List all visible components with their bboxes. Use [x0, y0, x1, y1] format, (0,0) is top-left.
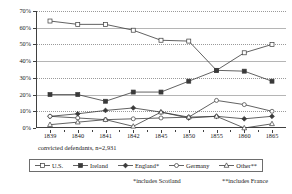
data-point [104, 99, 108, 103]
data-point [159, 90, 163, 94]
x-tick-mark [272, 130, 273, 133]
data-point [242, 103, 246, 107]
data-point [215, 98, 219, 102]
y-tick-label: 60% [19, 25, 31, 31]
x-tick-mark [217, 130, 218, 133]
y-tick-label: 50% [19, 41, 31, 47]
series-line [50, 21, 272, 70]
data-point [48, 19, 52, 23]
data-point [242, 116, 247, 121]
y-tick-mark [33, 128, 36, 129]
footnote-france: **includes France [222, 177, 268, 184]
x-tick-mark [244, 130, 245, 133]
x-tick-mark [161, 130, 162, 133]
series-us [48, 19, 274, 72]
data-point [270, 42, 274, 46]
data-point [159, 116, 163, 120]
chart-caption: convicted defendants, n=2,931 [38, 144, 117, 152]
chart-legend: U.S.IrelandEngland*GermanyOther** [29, 159, 263, 172]
legend-item-ireland[interactable]: Ireland [73, 162, 108, 169]
x-tick-mark [133, 130, 134, 133]
filled-diamond-icon [118, 162, 133, 169]
y-tick-label: 10% [19, 108, 31, 114]
line-chart: 0%10%20%30%40%50%60%70% 1839184018411842… [0, 0, 292, 194]
data-point [131, 28, 135, 32]
x-tick-label: 1842 [127, 132, 140, 139]
open-triangle-icon [219, 162, 234, 169]
data-point [131, 106, 136, 111]
data-point [104, 22, 108, 26]
data-point [48, 114, 52, 118]
data-point [103, 108, 108, 113]
data-point [215, 68, 219, 72]
data-point [75, 111, 80, 116]
y-tick-label: 70% [19, 8, 31, 14]
legend-item-other[interactable]: Other** [219, 162, 257, 169]
x-tick-mark [78, 130, 79, 133]
y-tick-label: 30% [19, 75, 31, 81]
data-point [131, 117, 135, 121]
open-square-icon [35, 162, 50, 169]
series-layer [36, 11, 286, 128]
legend-item-germany[interactable]: Germany [169, 162, 209, 169]
data-point [76, 93, 80, 97]
x-tick-label: 1850 [182, 132, 195, 139]
x-tick-label: 1841 [99, 132, 112, 139]
x-tick-label: 1860 [238, 132, 251, 139]
legend-label: Ireland [89, 162, 108, 169]
x-minor-tick [147, 130, 148, 132]
y-tick-label: 40% [19, 58, 31, 64]
footnote-scotland: *includes Scotland [133, 177, 181, 184]
x-tick-label: 1855 [210, 132, 223, 139]
y-tick-label: 20% [19, 91, 31, 97]
x-tick-mark [189, 130, 190, 133]
data-point [270, 121, 275, 125]
legend-label: Other** [235, 162, 257, 169]
data-point [187, 79, 191, 83]
open-circle-icon [169, 162, 184, 169]
legend-label: U.S. [51, 162, 63, 169]
x-tick-label: 1845 [155, 132, 168, 139]
legend-item-us[interactable]: U.S. [35, 162, 63, 169]
series-ireland [48, 68, 274, 103]
data-point [242, 51, 246, 55]
data-point [187, 39, 191, 43]
x-minor-tick [175, 130, 176, 132]
x-minor-tick [258, 130, 259, 132]
data-point [270, 79, 274, 83]
x-axis: 183918401841184218451850185518601865 [36, 130, 286, 144]
data-point [270, 109, 274, 113]
data-point [131, 90, 135, 94]
x-tick-mark [106, 130, 107, 133]
x-tick-label: 1840 [71, 132, 84, 139]
y-tick-label: 0% [23, 125, 31, 131]
legend-label: Germany [185, 162, 209, 169]
x-tick-label: 1839 [44, 132, 57, 139]
x-tick-label: 1865 [266, 132, 279, 139]
x-minor-tick [92, 130, 93, 132]
x-minor-tick [119, 130, 120, 132]
data-point [242, 69, 246, 73]
filled-square-icon [73, 162, 88, 169]
data-point [270, 114, 275, 119]
data-point [76, 22, 80, 26]
x-tick-mark [50, 130, 51, 133]
x-minor-tick [64, 130, 65, 132]
x-minor-tick [203, 130, 204, 132]
data-point [159, 38, 163, 42]
legend-label: England* [134, 162, 159, 169]
legend-item-england[interactable]: England* [118, 162, 159, 169]
series-line [50, 70, 272, 101]
y-axis: 0%10%20%30%40%50%60%70% [0, 0, 36, 128]
data-point [48, 93, 52, 97]
x-minor-tick [230, 130, 231, 132]
